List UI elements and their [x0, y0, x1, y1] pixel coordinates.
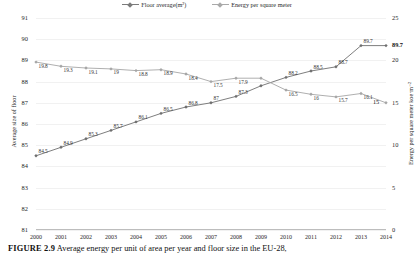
x-axis-tick-label: 2002: [73, 234, 99, 240]
series-marker: [259, 84, 262, 87]
y-axis-right-title: Energy per square meter koe·m⁻²: [407, 76, 414, 172]
y-axis-left-tick-label: 89: [2, 57, 28, 63]
legend-marker-energy-per-square-meter: [212, 2, 229, 7]
data-point-label: 16.5: [289, 92, 298, 97]
y-axis-left-tick-label: 84: [2, 163, 28, 169]
series-marker: [59, 146, 62, 149]
figure-caption-text: Average energy per unit of area per year…: [57, 244, 287, 253]
data-point-label: 84.9: [64, 141, 73, 146]
series-marker: [184, 105, 187, 108]
data-point-label: 17.5: [214, 83, 223, 88]
x-axis-tick-label: 2011: [298, 234, 324, 240]
series-marker: [84, 137, 87, 140]
series-marker: [34, 154, 37, 157]
data-point-label: 18.4: [189, 76, 198, 81]
x-axis-tick-label: 2006: [173, 234, 199, 240]
legend-item-floor-average: Floor average(m²): [122, 1, 186, 8]
x-axis-tick-label: 2008: [223, 234, 249, 240]
end-label-energy: 15: [373, 99, 379, 105]
series-marker: [359, 92, 362, 95]
data-point-label: 85.3: [89, 132, 98, 137]
series-marker: [234, 77, 237, 80]
x-axis-tick-label: 2000: [23, 234, 49, 240]
data-point-label: 86.5: [164, 107, 173, 112]
series-marker: [134, 120, 137, 123]
data-point-label: 18.9: [164, 71, 173, 76]
series-line: [36, 46, 386, 156]
x-axis-tick-label: 2007: [198, 234, 224, 240]
y-axis-left-tick-label: 90: [2, 36, 28, 42]
data-point-label: 86.8: [189, 101, 198, 106]
y-axis-left-title: Average size of floor: [10, 82, 17, 162]
data-point-label: 15.7: [339, 98, 348, 103]
data-point-label: 88.5: [314, 65, 323, 70]
data-point-label: 16: [314, 96, 319, 101]
series-marker: [209, 80, 212, 83]
series-marker: [384, 101, 387, 104]
end-label-floor-average: 89.7: [392, 42, 403, 48]
series-marker: [159, 112, 162, 115]
y-axis-right-tick-label: 25: [392, 15, 416, 21]
data-point-label: 88.2: [289, 71, 298, 76]
series-marker: [284, 76, 287, 79]
series-marker: [159, 68, 162, 71]
series-marker: [134, 69, 137, 72]
x-axis-tick-label: 2001: [48, 234, 74, 240]
x-axis-tick-label: 2004: [123, 234, 149, 240]
data-point-label: 89.7: [364, 39, 373, 44]
series-marker: [59, 65, 62, 68]
data-point-label: 87.3: [239, 90, 248, 95]
legend-item-energy-per-square-meter: Energy per square meter: [212, 1, 292, 8]
chart-legend: Floor average(m²) Energy per square mete…: [0, 1, 414, 8]
figure-caption-number: FIGURE 2.9: [8, 244, 55, 253]
series-marker: [109, 67, 112, 70]
y-axis-left-tick-label: 81: [2, 227, 28, 233]
series-marker: [309, 93, 312, 96]
data-point-label: 19.8: [39, 64, 48, 69]
series-marker: [234, 95, 237, 98]
data-point-label: 84.5: [39, 149, 48, 154]
data-point-label: 88.7: [339, 60, 348, 65]
x-axis-tick-label: 2003: [98, 234, 124, 240]
y-axis-left-tick-label: 91: [2, 15, 28, 21]
y-axis-left-tick-label: 83: [2, 185, 28, 191]
data-point-label: 86.1: [139, 115, 148, 120]
series-marker: [209, 101, 212, 104]
series-marker: [384, 44, 387, 47]
series-marker: [184, 72, 187, 75]
series-lines: [36, 18, 386, 230]
y-axis-left-tick-label: 82: [2, 206, 28, 212]
data-point-label: 19: [114, 70, 119, 75]
x-axis-tick-label: 2014: [373, 234, 399, 240]
data-point-label: 17.9: [239, 80, 248, 85]
x-axis-tick-label: 2012: [323, 234, 349, 240]
data-point-label: 16.1: [364, 95, 373, 100]
data-point-label: 85.7: [114, 124, 123, 129]
series-marker: [84, 66, 87, 69]
series-marker: [309, 69, 312, 72]
x-axis-tick-label: 2013: [348, 234, 374, 240]
x-axis-tick-label: 2010: [273, 234, 299, 240]
series-marker: [259, 77, 262, 80]
series-marker: [284, 88, 287, 91]
data-point-label: 19.1: [89, 70, 98, 75]
x-axis-tick-label: 2009: [248, 234, 274, 240]
legend-label-energy-per-square-meter: Energy per square meter: [231, 1, 292, 8]
data-point-label: 87: [214, 96, 219, 101]
data-point-label: 19.3: [64, 68, 73, 73]
data-point-label: 18.8: [139, 72, 148, 77]
figure-caption: FIGURE 2.9 Average energy per unit of ar…: [8, 243, 408, 254]
x-axis-tick-label: 2005: [148, 234, 174, 240]
series-marker: [109, 129, 112, 132]
y-axis-right-tick-label: 0: [392, 227, 416, 233]
y-axis-right-tick-label: 5: [392, 185, 416, 191]
series-marker: [334, 95, 337, 98]
legend-label-floor-average: Floor average(m²): [141, 1, 186, 8]
gridline: [36, 230, 386, 231]
y-axis-right-tick-label: 20: [392, 57, 416, 63]
legend-marker-floor-average: [122, 2, 139, 7]
series-marker: [34, 60, 37, 63]
